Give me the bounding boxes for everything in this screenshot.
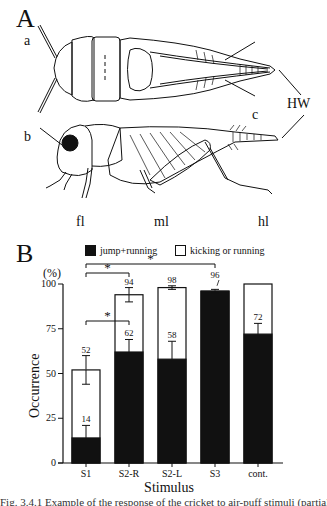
x-tick-s2-l: S2-L [152,469,192,479]
value-label-jump: 72 [254,312,263,322]
value-label-jump: 14 [82,414,92,424]
value-label-total: 96 [211,270,221,280]
value-label-jump: 62 [125,328,134,338]
value-label-total: 94 [125,277,135,287]
bar-jump-running [244,334,272,463]
value-label-jump: 58 [168,330,178,340]
x-axis-title: Stimulus [119,481,219,495]
figure-caption-fragment: Fig. 3.4.1 Example of the response of th… [0,497,327,506]
value-label-total: 98 [168,275,178,285]
x-tick-s1: S1 [66,469,106,479]
x-tick-s3: S3 [195,469,235,479]
significance-asterisk: * [104,308,111,323]
x-tick-s2-r: S2-R [109,469,149,479]
stacked-bar-chart: 5214946298589672*** [0,0,327,506]
significance-asterisk: * [147,251,154,266]
bar-jump-running [72,438,100,463]
bar-jump-running [158,359,186,463]
s3-label-pointer [217,280,219,286]
bar-jump-running [201,291,229,463]
x-tick-cont: cont. [238,469,278,479]
value-label-total: 52 [82,345,91,355]
significance-asterisk: * [104,260,111,275]
bar-jump-running [115,352,143,463]
